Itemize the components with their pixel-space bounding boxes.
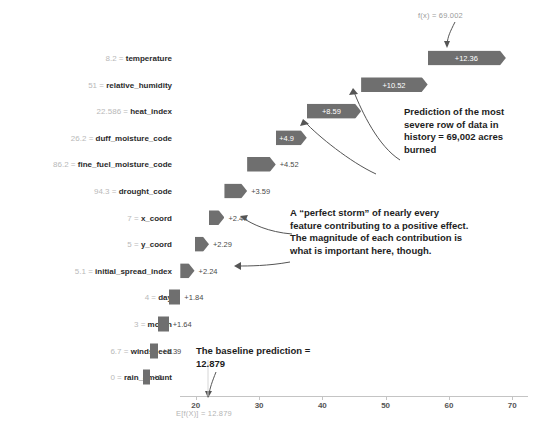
- waterfall-bar: [195, 237, 209, 252]
- waterfall-bar: [209, 210, 224, 225]
- feature-equals-sign: =: [97, 80, 106, 89]
- x-axis-tick: [196, 396, 197, 400]
- feature-equals-sign: =: [122, 346, 131, 355]
- waterfall-row: 4 = day+1.84: [0, 287, 536, 307]
- feature-equals-sign: =: [132, 240, 141, 249]
- bar-value-label: +4.9: [279, 133, 294, 142]
- feature-value: 94.3: [94, 187, 110, 196]
- baseline-value-label: E[f(X)] = 12.879: [176, 409, 232, 418]
- waterfall-bar: [224, 184, 247, 199]
- bar-value-label: +10.52: [382, 80, 405, 89]
- feature-value: 6.7: [110, 346, 121, 355]
- feature-equals-sign: =: [121, 107, 130, 116]
- feature-value: 5.1: [75, 266, 86, 275]
- feature-name: drought_code: [119, 187, 172, 196]
- x-axis-tick-label: 20: [191, 401, 200, 410]
- feature-label: 94.3 = drought_code: [94, 187, 172, 196]
- feature-name: duff_moisture_code: [96, 133, 172, 142]
- x-axis-tick: [322, 396, 323, 400]
- bar-value-label: +12.36: [455, 54, 478, 63]
- waterfall-row: 86.2 = fine_fuel_moisture_code+4.52: [0, 154, 536, 174]
- bar-value-label: +2.44: [228, 213, 247, 222]
- feature-equals-sign: =: [69, 160, 78, 169]
- waterfall-bar: [158, 317, 168, 332]
- feature-label: 0 = rain_amount: [110, 373, 172, 382]
- bar-value-label: +2.24: [199, 266, 218, 275]
- feature-name: initial_spread_index: [95, 266, 172, 275]
- waterfall-row: 94.3 = drought_code+3.59: [0, 181, 536, 201]
- feature-equals-sign: =: [86, 133, 95, 142]
- x-axis-tick-label: 30: [255, 401, 264, 410]
- waterfall-bar: [150, 343, 159, 358]
- feature-name: temperature: [126, 54, 172, 63]
- feature-equals-sign: =: [86, 266, 95, 275]
- bar-value-label: +1.84: [184, 293, 203, 302]
- waterfall-bar: [169, 290, 181, 305]
- feature-equals-sign: =: [117, 54, 126, 63]
- x-axis-tick-label: 50: [381, 401, 390, 410]
- x-axis-tick: [512, 396, 513, 400]
- feature-label: 22.586 = heat_index: [97, 107, 172, 116]
- waterfall-bar: [247, 157, 276, 172]
- x-axis-line: [180, 396, 528, 397]
- feature-name: x_coord: [141, 213, 172, 222]
- bar-value-label: +4.52: [280, 160, 299, 169]
- waterfall-bar: [180, 263, 194, 278]
- x-axis-tick: [449, 396, 450, 400]
- output-value-label: f(x) = 69.002: [418, 11, 463, 20]
- x-axis-tick: [259, 396, 260, 400]
- waterfall-bar: [143, 370, 150, 385]
- feature-name: fine_fuel_moisture_code: [78, 160, 172, 169]
- feature-name: y_coord: [141, 240, 172, 249]
- bar-value-label: +0: [154, 373, 163, 382]
- x-axis-tick-label: 40: [318, 401, 327, 410]
- waterfall-row: 8.2 = temperature+12.36: [0, 48, 536, 68]
- feature-label: 86.2 = fine_fuel_moisture_code: [53, 160, 172, 169]
- annotation-prediction: Prediction of the most severe row of dat…: [404, 106, 524, 157]
- feature-equals-sign: =: [149, 293, 158, 302]
- feature-label: 5 = y_coord: [127, 240, 172, 249]
- bar-value-label: +2.29: [213, 240, 232, 249]
- feature-value: 22.586: [97, 107, 121, 116]
- feature-value: 51: [88, 80, 97, 89]
- feature-name: relative_humidity: [106, 80, 172, 89]
- feature-equals-sign: =: [138, 320, 147, 329]
- annotation-perfect-storm: A “perfect storm” of nearly every featur…: [290, 207, 470, 258]
- feature-label: 7 = x_coord: [127, 213, 172, 222]
- feature-equals-sign: =: [115, 373, 124, 382]
- feature-label: 8.2 = temperature: [106, 54, 173, 63]
- feature-label: 51 = relative_humidity: [88, 80, 172, 89]
- waterfall-row: 5.1 = initial_spread_index+2.24: [0, 261, 536, 281]
- waterfall-row: 51 = relative_humidity+10.52: [0, 75, 536, 95]
- x-axis-tick: [386, 396, 387, 400]
- bar-value-label: +1.39: [162, 346, 181, 355]
- feature-name: heat_index: [130, 107, 172, 116]
- feature-equals-sign: =: [132, 213, 141, 222]
- x-axis-tick-label: 60: [444, 401, 453, 410]
- bar-value-label: +1.64: [173, 320, 192, 329]
- feature-label: 26.2 = duff_moisture_code: [71, 133, 172, 142]
- feature-label: 5.1 = initial_spread_index: [75, 266, 172, 275]
- bar-value-label: +8.59: [322, 107, 341, 116]
- feature-equals-sign: =: [110, 187, 119, 196]
- bar-value-label: +3.59: [251, 187, 270, 196]
- waterfall-row: 3 = month+1.64: [0, 314, 536, 334]
- shap-waterfall-plot: f(x) = 69.002 E[f(X)] = 12.879 203040506…: [0, 0, 536, 432]
- feature-value: 86.2: [53, 160, 69, 169]
- annotation-baseline: The baseline prediction = 12.879: [196, 345, 316, 370]
- feature-value: 26.2: [71, 133, 87, 142]
- feature-value: 8.2: [106, 54, 117, 63]
- x-axis-tick-label: 70: [508, 401, 517, 410]
